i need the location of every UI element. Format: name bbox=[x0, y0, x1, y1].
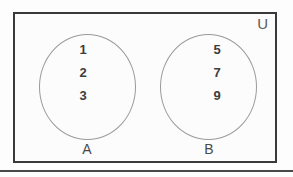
set-b-element: 5 bbox=[213, 43, 220, 56]
set-a-element: 3 bbox=[79, 89, 86, 102]
set-a-elements: 1 2 3 bbox=[71, 43, 95, 102]
set-b-element: 9 bbox=[213, 89, 220, 102]
universal-set-label: U bbox=[257, 16, 268, 31]
set-a-element: 2 bbox=[79, 66, 86, 79]
set-b-label: B bbox=[199, 142, 219, 156]
set-b-elements: 5 7 9 bbox=[205, 43, 229, 102]
set-a-element: 1 bbox=[79, 43, 86, 56]
universal-set-rectangle: U 1 2 3 5 7 9 A B bbox=[13, 12, 277, 163]
set-b-element: 7 bbox=[213, 66, 220, 79]
set-a-label: A bbox=[77, 142, 97, 156]
venn-diagram-figure: U 1 2 3 5 7 9 A B bbox=[0, 0, 293, 177]
bottom-divider-rule bbox=[0, 170, 293, 172]
